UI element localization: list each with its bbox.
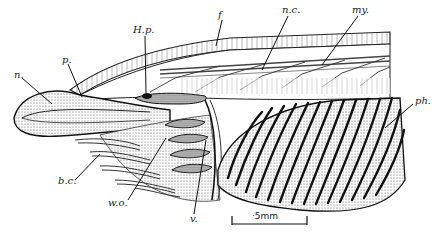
label-p: p. <box>62 55 72 65</box>
label-velum: v. <box>190 214 198 224</box>
lancelet-illustration <box>0 0 441 233</box>
hatschek-pit <box>135 93 206 104</box>
pharynx <box>218 98 405 211</box>
label-fin: f <box>218 10 222 20</box>
label-hatschek-pit: H.p. <box>133 25 154 35</box>
label-notochord-rostrum: n. <box>14 70 24 80</box>
label-buccal-cirri: b.c. <box>58 176 76 186</box>
label-myotome: my. <box>352 5 369 15</box>
label-pharynx: ph. <box>415 96 431 106</box>
label-nerve-cord: n.c. <box>282 5 300 15</box>
label-wheel-organ: w.o. <box>108 198 128 208</box>
scale-bar-label: ·5mm <box>252 212 278 221</box>
